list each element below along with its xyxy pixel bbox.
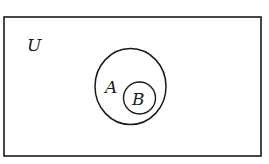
set-b-label: B	[131, 89, 145, 109]
universe-label: U	[27, 35, 42, 55]
set-a-label: A	[103, 77, 117, 97]
universe-rectangle	[4, 17, 261, 156]
venn-diagram: U A B	[0, 0, 269, 164]
